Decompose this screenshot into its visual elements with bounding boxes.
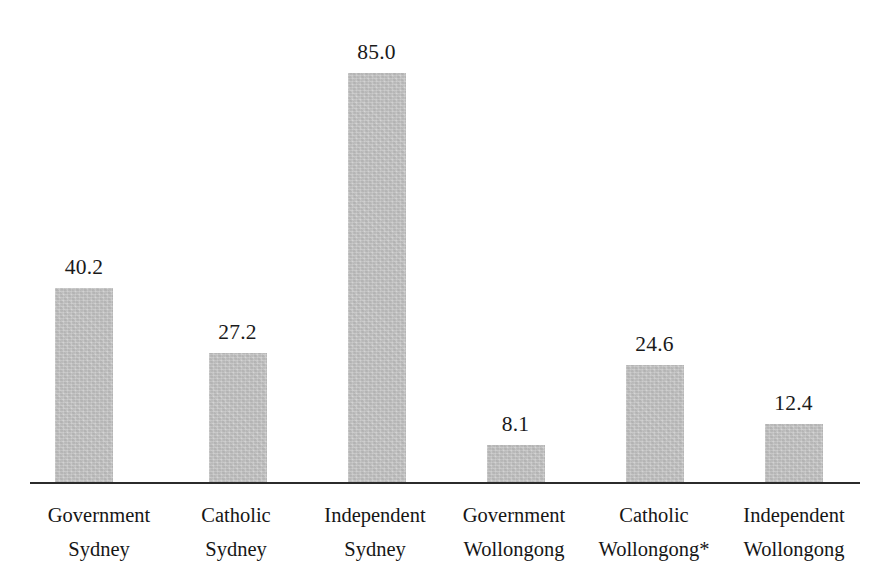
bar-value-label: 27.2 xyxy=(218,322,256,344)
x-axis-line xyxy=(30,482,860,484)
bar-value-label: 8.1 xyxy=(502,414,529,436)
bar-chart: 40.2 27.2 85.0 8.1 24.6 12.4 Government xyxy=(0,0,891,583)
bar-independent-wollongong[interactable] xyxy=(765,424,823,484)
bar-catholic-wollongong[interactable] xyxy=(626,365,684,484)
bar-value-label: 85.0 xyxy=(357,42,395,64)
bar-slot-government-sydney: 40.2 xyxy=(0,0,168,484)
tick-label-line1: Government xyxy=(463,504,565,526)
plot-area: 40.2 27.2 85.0 8.1 24.6 12.4 xyxy=(0,0,891,484)
bar-independent-sydney[interactable] xyxy=(348,73,406,484)
tick-label-line2: Wollongong xyxy=(704,532,884,566)
bar-value-label: 40.2 xyxy=(65,257,103,279)
bar-slot-catholic-sydney: 27.2 xyxy=(168,0,307,484)
bar-slot-independent-wollongong: 12.4 xyxy=(724,0,863,484)
x-axis-tick-labels: Government Sydney Catholic Sydney Indepe… xyxy=(0,498,891,583)
tick-label-line1: Independent xyxy=(324,504,425,526)
bar-catholic-sydney[interactable] xyxy=(209,353,267,484)
tick-label-line1: Independent xyxy=(743,504,844,526)
bar-value-label: 24.6 xyxy=(635,334,673,356)
bar-government-wollongong[interactable] xyxy=(487,445,545,484)
bar-slot-government-wollongong: 8.1 xyxy=(446,0,585,484)
bar-value-label: 12.4 xyxy=(774,393,812,415)
bar-slot-catholic-wollongong: 24.6 xyxy=(585,0,724,484)
tick-label-line1: Government xyxy=(48,504,150,526)
bar-slot-independent-sydney: 85.0 xyxy=(307,0,446,484)
x-tick-label-independent-wollongong: Independent Wollongong xyxy=(704,498,884,566)
bar-government-sydney[interactable] xyxy=(55,288,113,484)
tick-label-line1: Catholic xyxy=(619,504,688,526)
tick-label-line1: Catholic xyxy=(201,504,270,526)
